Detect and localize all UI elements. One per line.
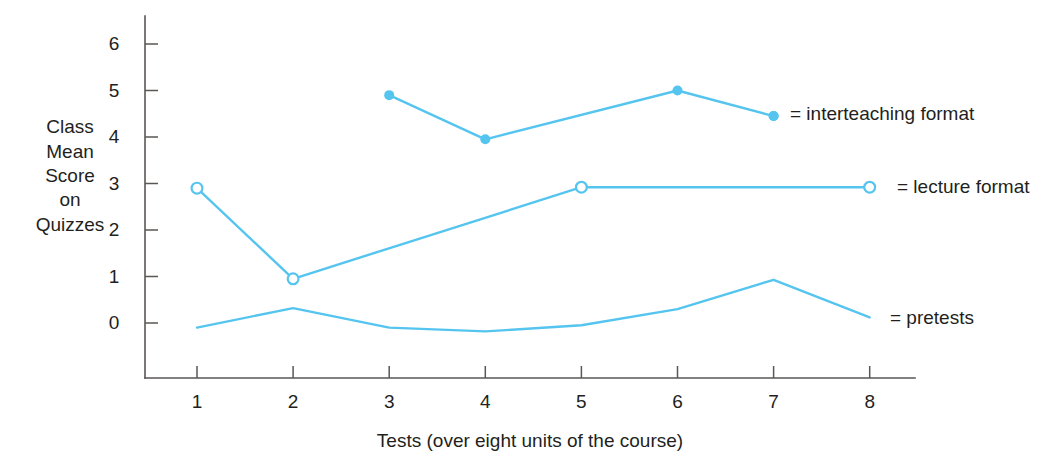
data-point-marker [480,134,490,144]
legend-label-pretests: = pretests [890,308,974,327]
y-axis-title-line: Quizzes [28,213,112,237]
series-line-interteaching-format [389,91,773,140]
y-axis-title-line: on [28,188,112,212]
x-tick-label-8: 8 [855,392,885,411]
data-point-marker [576,182,587,193]
x-tick-label-5: 5 [566,392,596,411]
y-axis-title-line: Class [28,115,112,139]
y-axis-title: ClassMeanScoreonQuizzes [28,115,112,237]
data-point-marker [384,90,394,100]
legend-label-lecture-format: = lecture format [897,177,1030,196]
y-tick-label-5: 5 [101,81,127,100]
legend-swatch-lecture-format [864,182,875,193]
axes [145,16,915,378]
x-tick-label-7: 7 [759,392,789,411]
y-tick-label-1: 1 [101,267,127,286]
series-line-pretests [197,280,870,332]
x-axis-title: Tests (over eight units of the course) [280,430,780,452]
data-point-marker [288,273,299,284]
series-line-lecture-format [197,187,870,279]
legend-label-interteaching-format: = interteaching format [790,104,974,123]
y-tick-label-0: 0 [101,313,127,332]
data-series [192,86,870,332]
y-axis-title-line: Mean [28,140,112,164]
legend-swatch-interteaching-format [769,111,779,121]
data-point-marker [192,183,203,194]
x-tick-label-1: 1 [182,392,212,411]
x-tick-label-6: 6 [663,392,693,411]
chart-plot-area [0,0,1043,470]
data-point-marker [673,86,683,96]
chart-figure: 0123456 12345678 ClassMeanScoreonQuizzes… [0,0,1043,470]
x-tick-label-4: 4 [470,392,500,411]
x-tick-label-2: 2 [278,392,308,411]
x-tick-label-3: 3 [374,392,404,411]
y-axis-title-line: Score [28,164,112,188]
y-tick-label-6: 6 [101,34,127,53]
